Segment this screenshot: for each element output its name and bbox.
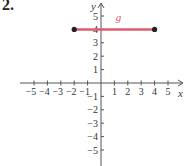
- y-tick-label: 3: [93, 37, 98, 48]
- y-tick-label: −4: [87, 131, 98, 142]
- y-tick-label: 2: [93, 51, 98, 62]
- y-tick-label: −2: [87, 104, 98, 115]
- x-tick-label: 5: [166, 86, 171, 97]
- y-tick-label: 1: [93, 64, 98, 75]
- coordinate-plane: −5−4−3−2−112345−5−4−3−2−112345xyg: [0, 0, 185, 166]
- y-tick-label: −5: [87, 145, 98, 156]
- y-axis-label: y: [90, 0, 96, 12]
- function-label-g: g: [116, 11, 122, 23]
- x-tick-label: 1: [112, 86, 117, 97]
- x-tick-label: −2: [66, 86, 77, 97]
- y-tick-label: −1: [87, 91, 98, 102]
- y-tick-label: −3: [87, 118, 98, 129]
- closed-endpoint-dot: [72, 27, 77, 32]
- x-tick-label: −5: [26, 86, 37, 97]
- closed-endpoint-dot: [152, 27, 157, 32]
- x-tick-label: 3: [139, 86, 144, 97]
- x-tick-label: 2: [125, 86, 130, 97]
- x-tick-label: 4: [152, 86, 157, 97]
- y-tick-label: 5: [93, 11, 98, 22]
- x-tick-label: −3: [52, 86, 63, 97]
- x-axis-label: x: [177, 87, 183, 99]
- x-tick-label: −4: [39, 86, 50, 97]
